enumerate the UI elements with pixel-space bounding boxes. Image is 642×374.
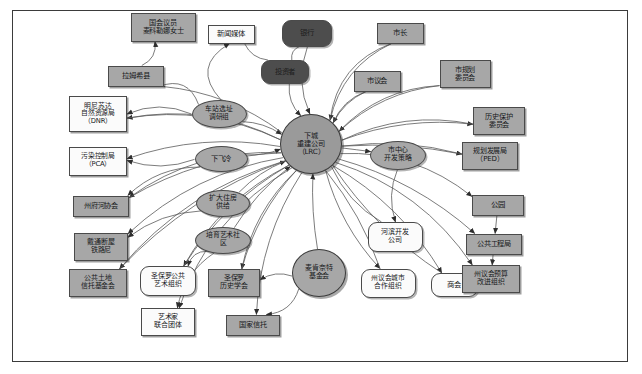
node-label: 扩大住房 供给 [199, 195, 247, 211]
node-label: 艺术家 联合团体 [144, 314, 192, 330]
node-label: 公共土地 信托基金会 [72, 275, 124, 290]
node-label: 新闻媒体 [211, 30, 252, 38]
node-label: 市规划 委员会 [443, 66, 488, 82]
node-artistGrp[interactable]: 艺术家 联合团体 [141, 308, 195, 336]
node-housing[interactable]: 扩大住房 供给 [196, 190, 250, 217]
node-ped[interactable]: 规划发展局 （PED） [462, 142, 518, 170]
node-histSoc[interactable]: 圣保罗 历史学会 [208, 269, 260, 297]
node-label: 历史保护 委员会 [476, 113, 522, 129]
diagram-canvas: 国会议员 麦科勒娜女士新闻媒体银行市长拉姆希县投资者市议会市规划 委员会明尼苏达… [0, 0, 642, 374]
node-label: 国会议员 麦科勒娜女士 [134, 19, 193, 35]
node-burlington[interactable]: 戴通断屋 铁路尼 [74, 233, 128, 261]
node-ramsey[interactable]: 拉姆希县 [108, 66, 164, 87]
node-label: 污染控制局 （PCA） [72, 153, 124, 168]
diagram-frame [12, 10, 628, 362]
node-label: 州府河协会 [76, 202, 126, 210]
node-stateCoop[interactable]: 州议会城市 合作组织 [361, 269, 416, 298]
node-mcknight[interactable]: 麦肯奈特 基金会 [292, 249, 346, 297]
node-label: 公园 [475, 201, 521, 209]
node-budget[interactable]: 州议会预算 改进组织 [462, 265, 520, 293]
node-investors[interactable]: 投资者 [261, 60, 309, 84]
node-label: 公共工程局 [469, 240, 519, 248]
node-label: 国家信托 [229, 321, 277, 329]
node-natTrust[interactable]: 国家信托 [226, 315, 280, 336]
node-riverDev[interactable]: 河滨开发 公司 [368, 222, 423, 252]
node-label: 银行 [285, 29, 329, 37]
node-label: 河滨开发 公司 [371, 229, 420, 245]
node-label: 培育艺术社 区 [198, 232, 248, 247]
node-label: 市长 [380, 29, 421, 37]
node-trustLand[interactable]: 公共土地 信托基金会 [69, 269, 127, 297]
node-dnr[interactable]: 明尼苏达 自然资源局 （DNR） [69, 96, 127, 132]
node-council[interactable]: 市议会 [354, 71, 401, 92]
node-label: 明尼苏达 自然资源局 （DNR） [72, 103, 124, 126]
node-label: 投资者 [264, 68, 306, 76]
node-planComm[interactable]: 市规划 委员会 [440, 60, 491, 88]
node-airfall[interactable]: 下飞冷 [195, 146, 248, 172]
node-mayor[interactable]: 市长 [377, 23, 424, 44]
node-label: 市中心 开发策略 [373, 147, 423, 162]
node-histPres[interactable]: 历史保护 委员会 [473, 107, 525, 135]
node-banks[interactable]: 银行 [282, 20, 332, 47]
node-park[interactable]: 公园 [472, 195, 524, 216]
node-label: 州议会预算 改进组织 [465, 271, 517, 286]
node-label: 州议会城市 合作组织 [364, 275, 413, 290]
node-publicWorks[interactable]: 公共工程局 [466, 234, 522, 255]
node-label: 市议会 [357, 77, 398, 85]
node-media[interactable]: 新闻媒体 [208, 25, 255, 44]
node-label: 圣保罗公共 艺术组织 [143, 273, 193, 288]
node-artsCommun[interactable]: 培育艺术社 区 [195, 227, 251, 254]
node-label: 下城 重建公司 （LRC） [283, 132, 339, 156]
node-label: 圣保罗 历史学会 [211, 275, 257, 291]
node-label: 规划发展局 （PED） [465, 148, 515, 164]
node-label: 下飞冷 [198, 155, 245, 163]
node-label: 戴通断屋 铁路尼 [77, 239, 125, 255]
node-riverAssoc[interactable]: 州府河协会 [73, 196, 129, 217]
node-label: 麦肯奈特 基金会 [295, 265, 343, 281]
node-downtown[interactable]: 市中心 开发策略 [370, 141, 426, 170]
node-label: 车站选址 调研组 [195, 106, 244, 121]
node-core[interactable]: 下城 重建公司 （LRC） [280, 114, 342, 174]
node-congress[interactable]: 国会议员 麦科勒娜女士 [131, 13, 196, 42]
node-label: 拉姆希县 [111, 72, 161, 80]
node-publicArt[interactable]: 圣保罗公共 艺术组织 [140, 266, 196, 296]
node-pca[interactable]: 污染控制局 （PCA） [69, 147, 127, 176]
node-station[interactable]: 车站选址 调研组 [192, 100, 247, 128]
